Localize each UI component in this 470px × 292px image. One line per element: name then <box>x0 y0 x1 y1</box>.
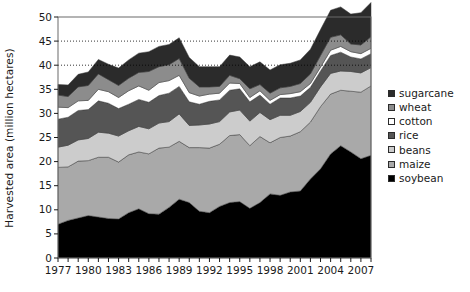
legend-item-wheat[interactable]: wheat <box>388 100 470 114</box>
stacked-area-chart: Harvested area (million hectares) 051015… <box>0 0 470 292</box>
legend-item-soybean[interactable]: soybean <box>388 171 470 185</box>
legend-item-cotton[interactable]: cotton <box>388 114 470 128</box>
legend-label-soybean: soybean <box>399 173 443 184</box>
legend-item-sugarcane[interactable]: sugarcane <box>388 86 470 100</box>
legend-swatch-rice <box>388 132 395 139</box>
chart-legend: sugarcanewheatcottonricebeansmaizesoybea… <box>388 86 470 185</box>
legend-label-rice: rice <box>399 130 418 141</box>
legend-label-maize: maize <box>399 159 431 170</box>
legend-item-maize[interactable]: maize <box>388 157 470 171</box>
legend-item-rice[interactable]: rice <box>388 129 470 143</box>
legend-swatch-beans <box>388 146 395 153</box>
legend-swatch-sugarcane <box>388 90 395 97</box>
legend-swatch-maize <box>388 161 395 168</box>
legend-swatch-cotton <box>388 118 395 125</box>
legend-label-wheat: wheat <box>399 102 431 113</box>
legend-label-cotton: cotton <box>399 116 433 127</box>
legend-label-beans: beans <box>399 145 431 156</box>
legend-item-beans[interactable]: beans <box>388 143 470 157</box>
legend-swatch-soybean <box>388 175 395 182</box>
legend-label-sugarcane: sugarcane <box>399 88 454 99</box>
legend-swatch-wheat <box>388 104 395 111</box>
